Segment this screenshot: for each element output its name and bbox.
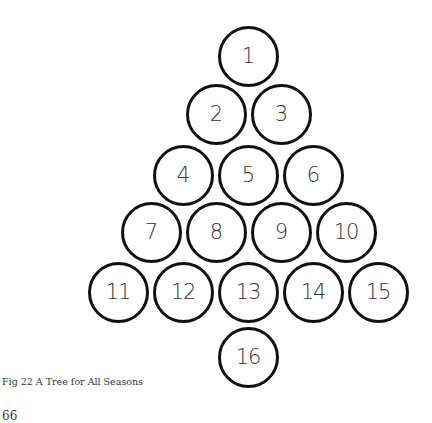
circle-label: 14 <box>301 280 326 304</box>
circle-5: 5 <box>218 145 279 206</box>
circle-label: 11 <box>106 280 131 304</box>
circle-3: 3 <box>251 84 312 145</box>
circle-9: 9 <box>251 202 312 263</box>
figure-caption: Fig 22 A Tree for All Seasons <box>2 376 143 387</box>
circle-14: 14 <box>283 262 344 323</box>
circle-1: 1 <box>218 26 279 87</box>
circle-15: 15 <box>348 262 409 323</box>
circle-4: 4 <box>153 145 214 206</box>
circle-2: 2 <box>186 84 247 145</box>
tree-diagram: 12345678910111213141516 <box>0 0 432 423</box>
circle-label: 16 <box>236 345 261 369</box>
circle-label: 9 <box>275 220 287 244</box>
circle-label: 10 <box>334 220 359 244</box>
page-number: 66 <box>2 409 17 423</box>
circle-16: 16 <box>218 327 279 388</box>
circle-label: 8 <box>210 220 222 244</box>
circle-8: 8 <box>186 202 247 263</box>
circle-label: 6 <box>307 163 319 187</box>
circle-label: 4 <box>177 163 189 187</box>
circle-11: 11 <box>88 262 149 323</box>
circle-10: 10 <box>316 202 377 263</box>
circle-label: 2 <box>210 102 222 126</box>
circle-label: 1 <box>242 44 254 68</box>
circle-label: 5 <box>242 163 254 187</box>
circle-label: 15 <box>366 280 391 304</box>
circle-label: 3 <box>275 102 287 126</box>
circle-12: 12 <box>153 262 214 323</box>
circle-7: 7 <box>121 202 182 263</box>
circle-label: 13 <box>236 280 261 304</box>
circle-label: 7 <box>145 220 157 244</box>
circle-6: 6 <box>283 145 344 206</box>
circle-label: 12 <box>171 280 196 304</box>
circle-13: 13 <box>218 262 279 323</box>
